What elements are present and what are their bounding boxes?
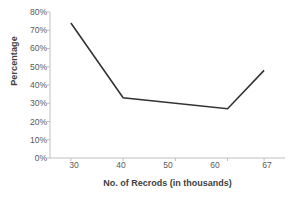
plot-area (0, 0, 299, 199)
line-chart: Percentage 80% 70% 60% 50% 40% 30% 20% 1… (0, 0, 299, 199)
data-series-line (71, 23, 264, 109)
